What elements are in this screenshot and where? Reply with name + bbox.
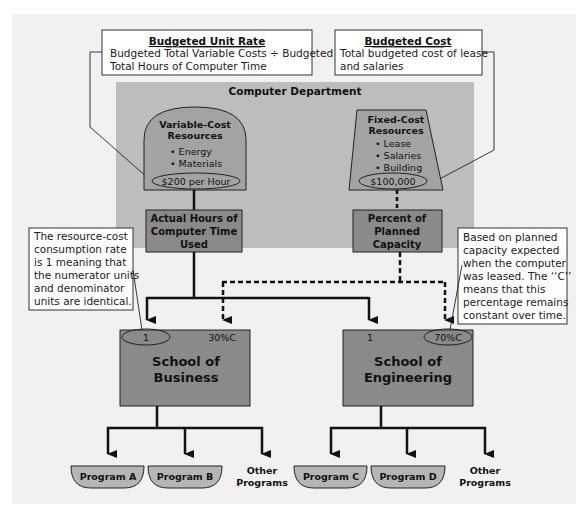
variable-cost-title-line2: Resources	[167, 130, 222, 141]
program-c: Program C	[294, 466, 367, 488]
consumption-rate-note: The resource-cost consumption rate is 1 …	[29, 228, 139, 310]
planned-capacity-note: Based on planned capacity expected when …	[458, 228, 571, 324]
consumption-note-line4: the numerator units	[34, 269, 139, 281]
budgeted-unit-rate-note: Budgeted Unit Rate Budgeted Total Variab…	[102, 30, 333, 75]
percent-capacity-line1: Percent of	[368, 213, 427, 224]
capacity-note-line7: constant over time.	[463, 309, 566, 321]
program-b: Program B	[148, 466, 222, 488]
program-c-label: Program C	[303, 471, 359, 482]
engineering-fixed-share: 70%C	[434, 332, 462, 343]
engineering-name-line1: School of	[374, 354, 442, 369]
business-other-programs-line1: Other	[247, 465, 278, 476]
percent-capacity-line3: Capacity	[373, 239, 422, 250]
fixed-cost-title-line2: Resources	[368, 125, 423, 136]
budgeted-cost-line2: and salaries	[340, 60, 404, 72]
actual-hours-line3: Used	[180, 239, 208, 250]
capacity-note-line2: capacity expected	[463, 244, 559, 256]
budgeted-cost-note: Budgeted Cost Total budgeted cost of lea…	[335, 30, 488, 75]
business-name-line2: Business	[154, 370, 219, 385]
percent-capacity-box: Percent of Planned Capacity	[353, 210, 442, 252]
business-variable-rate: 1	[143, 332, 149, 343]
capacity-note-line6: percentage remains	[463, 296, 568, 308]
capacity-note-line5: means that this	[463, 283, 545, 295]
school-of-business: 1 30%C School of Business	[120, 329, 250, 406]
variable-rate-value: $200 per Hour	[162, 176, 231, 187]
actual-hours-line1: Actual Hours of	[150, 213, 238, 224]
resource-consumption-diagram: Computer Department Budgeted Unit Rate B…	[0, 0, 588, 511]
capacity-note-line3: when the computer	[463, 257, 567, 269]
program-d: Program D	[371, 466, 445, 488]
fixed-cost-title-line1: Fixed-Cost	[368, 114, 425, 125]
consumption-note-line6: units are identical.	[34, 295, 132, 307]
fixed-cost-item-salaries: • Salaries	[375, 150, 421, 161]
business-name-line1: School of	[152, 354, 220, 369]
program-a: Program A	[71, 466, 144, 488]
consumption-note-line2: consumption rate	[34, 243, 127, 255]
business-fixed-share: 30%C	[208, 332, 236, 343]
budgeted-unit-rate-line2: Total Hours of Computer Time	[109, 60, 267, 72]
fixed-cost-amount: $100,000	[370, 176, 415, 187]
budgeted-cost-title: Budgeted Cost	[364, 35, 451, 47]
budgeted-cost-line1: Total budgeted cost of lease	[339, 47, 488, 59]
capacity-note-line4: was leased. The ‘‘C’’	[463, 270, 571, 282]
fixed-cost-item-lease: • Lease	[375, 138, 411, 149]
percent-capacity-line2: Planned	[374, 226, 420, 237]
budgeted-unit-rate-title: Budgeted Unit Rate	[149, 35, 266, 47]
variable-cost-item-energy: • Energy	[170, 146, 212, 157]
engineering-name-line2: Engineering	[364, 370, 452, 385]
business-other-programs-line2: Programs	[236, 477, 288, 488]
fixed-cost-resources: Fixed-Cost Resources • Lease • Salaries …	[349, 110, 443, 190]
fixed-cost-item-building: • Building	[375, 162, 422, 173]
consumption-note-line5: and denominator	[34, 282, 125, 294]
actual-hours-line2: Computer Time	[151, 226, 238, 237]
variable-cost-resources: Variable-Cost Resources • Energy • Mater…	[144, 107, 246, 190]
engineering-other-programs-line2: Programs	[459, 477, 511, 488]
school-of-engineering: 1 70%C School of Engineering	[343, 329, 473, 406]
budgeted-unit-rate-line1: Budgeted Total Variable Costs ÷ Budgeted	[110, 47, 333, 59]
program-a-label: Program A	[80, 471, 137, 482]
variable-cost-item-materials: • Materials	[170, 158, 222, 169]
consumption-note-line3: is 1 meaning that	[34, 256, 126, 268]
consumption-note-line1: The resource-cost	[33, 230, 128, 242]
engineering-other-programs-line1: Other	[470, 465, 501, 476]
engineering-variable-rate: 1	[367, 332, 373, 343]
actual-hours-box: Actual Hours of Computer Time Used	[146, 210, 242, 252]
variable-cost-title-line1: Variable-Cost	[159, 119, 231, 130]
program-b-label: Program B	[157, 471, 214, 482]
capacity-note-line1: Based on planned	[463, 231, 557, 243]
department-title: Computer Department	[228, 85, 361, 97]
program-d-label: Program D	[379, 471, 436, 482]
